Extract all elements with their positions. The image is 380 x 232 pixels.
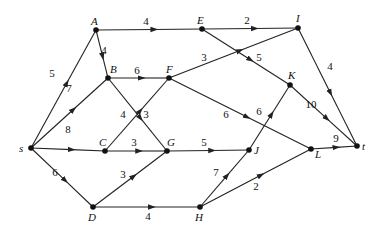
edge-weight-label: 4 bbox=[101, 44, 107, 56]
edge-line bbox=[140, 78, 169, 111]
node-dot bbox=[197, 204, 203, 210]
node-label: C bbox=[99, 136, 107, 148]
node-I: I bbox=[295, 12, 301, 31]
node-s: s bbox=[19, 142, 34, 154]
node-label: F bbox=[165, 63, 173, 75]
edge-weight-label: 5 bbox=[201, 136, 207, 148]
node-label: E bbox=[196, 14, 204, 26]
edge-A-B: 4 bbox=[96, 30, 108, 78]
edge-line bbox=[200, 175, 261, 207]
edges-layer: 578644634334253657264109 bbox=[31, 14, 357, 222]
edge-H-L: 2 bbox=[200, 149, 311, 207]
node-dot bbox=[105, 75, 111, 81]
edge-line bbox=[31, 148, 72, 150]
edge-weight-label: 7 bbox=[213, 166, 219, 178]
edge-s-A: 5 bbox=[31, 30, 96, 148]
edge-D-H: 4 bbox=[93, 207, 200, 222]
node-label: s bbox=[19, 142, 23, 154]
edge-line bbox=[140, 118, 167, 151]
node-label: t bbox=[362, 140, 366, 152]
edge-s-D: 6 bbox=[31, 148, 93, 207]
edge-weight-label: 6 bbox=[223, 108, 229, 120]
edge-J-K: 6 bbox=[249, 85, 290, 150]
edge-line bbox=[93, 176, 134, 207]
node-label: D bbox=[87, 211, 96, 223]
edge-weight-label: 5 bbox=[49, 67, 55, 79]
edge-weight-label: 5 bbox=[256, 51, 262, 63]
edge-line bbox=[72, 150, 105, 151]
node-D: D bbox=[87, 204, 96, 223]
edge-weight-label: 4 bbox=[143, 15, 149, 27]
node-J: J bbox=[246, 144, 260, 156]
node-A: A bbox=[90, 15, 99, 33]
edge-line bbox=[103, 56, 108, 78]
node-label: B bbox=[110, 63, 117, 75]
edge-line bbox=[73, 78, 108, 110]
node-dot bbox=[308, 146, 314, 152]
edge-C-F: 4 bbox=[105, 78, 169, 151]
node-label: H bbox=[194, 211, 204, 223]
edge-line bbox=[200, 176, 227, 207]
edge-D-G: 3 bbox=[93, 151, 167, 207]
edge-line bbox=[272, 85, 290, 114]
edge-F-L: 6 bbox=[169, 78, 311, 149]
edge-weight-label: 7 bbox=[66, 82, 72, 94]
edge-weight-label: 8 bbox=[65, 123, 71, 135]
node-dot bbox=[164, 148, 170, 154]
edge-E-I: 2 bbox=[202, 14, 298, 29]
edge-B-F: 6 bbox=[108, 64, 169, 78]
edge-weight-label: 3 bbox=[131, 136, 137, 148]
edge-weight-label: 4 bbox=[145, 210, 151, 222]
edge-line bbox=[298, 28, 330, 93]
edge-L-t: 9 bbox=[311, 132, 357, 149]
edge-line bbox=[261, 149, 311, 175]
edge-I-t: 4 bbox=[298, 28, 357, 146]
edge-weight-label: 6 bbox=[52, 166, 58, 178]
node-dot bbox=[90, 204, 96, 210]
network-graph: 578644634334253657264109 sABCDEFGHIJKLt bbox=[0, 0, 380, 232]
edge-line bbox=[65, 180, 93, 207]
edge-line bbox=[250, 60, 290, 85]
edge-weight-label: 6 bbox=[134, 64, 140, 76]
edge-E-K: 5 bbox=[202, 29, 290, 85]
node-dot bbox=[166, 75, 172, 81]
nodes-layer: sABCDEFGHIJKLt bbox=[19, 12, 366, 223]
node-t: t bbox=[354, 140, 366, 152]
edge-weight-label: 3 bbox=[120, 168, 126, 180]
edge-line bbox=[96, 29, 154, 30]
edge-K-t: 10 bbox=[290, 85, 357, 146]
edge-weight-label: 4 bbox=[120, 108, 126, 120]
node-label: G bbox=[167, 136, 175, 148]
edge-s-B: 7 bbox=[31, 78, 108, 148]
edge-G-J: 5 bbox=[167, 136, 249, 151]
node-K: K bbox=[287, 69, 296, 88]
node-dot bbox=[93, 27, 99, 33]
edge-line bbox=[134, 151, 167, 176]
edge-line bbox=[240, 28, 298, 51]
node-dot bbox=[246, 147, 252, 153]
edge-weight-label: 9 bbox=[333, 132, 339, 144]
node-dot bbox=[28, 145, 34, 151]
edge-weight-label: 6 bbox=[256, 105, 262, 117]
edge-weight-label: 3 bbox=[201, 51, 207, 63]
edge-line bbox=[202, 28, 255, 29]
edge-weight-label: 3 bbox=[143, 108, 149, 120]
node-dot bbox=[102, 148, 108, 154]
edge-line bbox=[336, 146, 357, 147]
edge-weight-label: 4 bbox=[327, 60, 333, 72]
edge-A-E: 4 bbox=[96, 15, 202, 30]
edge-line bbox=[31, 148, 65, 180]
node-label: J bbox=[254, 144, 260, 156]
node-dot bbox=[199, 26, 205, 32]
node-label: A bbox=[90, 15, 98, 27]
edge-line bbox=[169, 78, 247, 117]
edge-C-G: 3 bbox=[105, 136, 167, 151]
edge-weight-label: 10 bbox=[306, 98, 318, 110]
edge-weight-label: 2 bbox=[244, 14, 250, 26]
edge-line bbox=[327, 119, 357, 146]
node-label: K bbox=[287, 69, 296, 81]
edge-H-J: 7 bbox=[200, 150, 249, 207]
edge-F-I: 3 bbox=[169, 28, 298, 78]
edge-line bbox=[31, 83, 67, 148]
edge-weight-label: 2 bbox=[253, 180, 259, 192]
